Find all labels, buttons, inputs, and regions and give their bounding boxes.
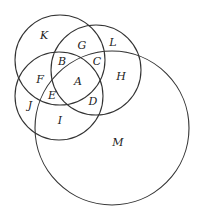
venn-diagram: K G L B C F A H E J D I M [0, 0, 201, 217]
region-label-m: M [111, 136, 124, 149]
region-label-b: B [57, 55, 66, 68]
region-label-c: C [93, 55, 102, 68]
region-label-h: H [115, 70, 126, 83]
region-label-j: J [26, 99, 33, 112]
circle-large-bottom [35, 51, 189, 205]
region-label-k: K [39, 29, 49, 42]
region-label-d: D [88, 95, 98, 108]
region-label-i: I [57, 114, 63, 127]
region-label-l: L [108, 36, 116, 49]
region-label-a: A [73, 75, 82, 88]
region-label-f: F [35, 73, 44, 86]
region-label-g: G [78, 39, 87, 52]
region-label-e: E [47, 89, 56, 102]
